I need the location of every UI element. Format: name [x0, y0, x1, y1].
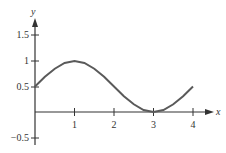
x-axis-arrow-icon — [205, 109, 214, 115]
y-tick-label: −0.5 — [11, 132, 29, 143]
y-axis-label: y — [30, 6, 36, 17]
chart: y x 1 2 3 4 1.5 1 0.5 −0.5 — [0, 0, 226, 153]
y-tick-label: 0.5 — [17, 81, 30, 92]
x-tick-label: 3 — [151, 119, 156, 130]
x-tick-label: 1 — [72, 119, 77, 130]
x-tick-label: 4 — [191, 119, 196, 130]
x-tick-label: 2 — [112, 119, 117, 130]
x-axis-label: x — [215, 106, 221, 117]
data-series-curve — [35, 61, 193, 112]
y-axis-arrow-icon — [32, 18, 38, 27]
y-tick-label: 1.5 — [17, 29, 30, 40]
x-ticks: 1 2 3 4 — [72, 108, 196, 130]
y-tick-label: 1 — [24, 55, 29, 66]
